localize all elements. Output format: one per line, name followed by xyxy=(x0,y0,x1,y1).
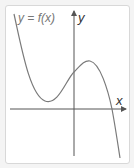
x-axis-label: x xyxy=(116,93,123,108)
function-label: y = f(x) xyxy=(18,11,55,25)
graph-canvas xyxy=(0,0,134,168)
y-axis-label: y xyxy=(78,10,85,25)
function-curve xyxy=(14,14,120,158)
